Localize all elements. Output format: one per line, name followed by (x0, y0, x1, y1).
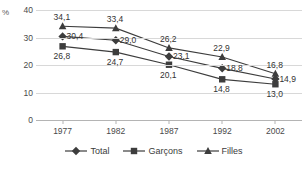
gridline (36, 65, 302, 66)
x-axis-tick-mark (115, 120, 116, 124)
gridline (36, 10, 302, 11)
data-point-label: 16,8 (266, 61, 283, 70)
x-axis-tick-label: 1992 (213, 126, 232, 136)
x-axis-tick-mark (169, 120, 170, 124)
x-axis-tick-label: 1982 (106, 126, 125, 136)
y-axis-tick-label: 10 (0, 88, 36, 98)
data-point-marker (113, 49, 119, 55)
data-point-marker (131, 148, 137, 154)
data-point-label: 33,4 (107, 15, 124, 24)
x-axis: 19771982198719922002 (36, 126, 302, 140)
data-point-label: 26,8 (54, 52, 71, 61)
y-axis: 010203040 (0, 0, 36, 120)
data-point-label: 22,9 (213, 44, 230, 53)
data-point-label: 13,0 (266, 90, 283, 99)
data-point-label: 23,1 (173, 52, 190, 61)
x-axis-tick-label: 1987 (160, 126, 179, 136)
y-axis-tick-label: 20 (0, 60, 36, 70)
data-point-marker (72, 147, 80, 155)
legend-label: Total (90, 146, 109, 156)
legend-label: Garçons (148, 146, 182, 156)
data-point-marker (58, 32, 66, 40)
data-point-label: 20,1 (160, 71, 177, 80)
data-point-label: 30,4 (67, 32, 84, 41)
legend-marker-diamond-icon (65, 146, 87, 156)
data-point-label: 14,9 (279, 75, 296, 84)
data-point-marker (165, 52, 173, 60)
legend-marker-triangle-icon (197, 146, 219, 156)
legend-item[interactable]: Total (65, 146, 109, 156)
data-point-marker (59, 43, 65, 49)
x-axis-tick-mark (275, 120, 276, 124)
x-axis-tick-label: 1977 (53, 126, 72, 136)
line-chart: % 010203040 30,429,023,118,814,926,824,7… (0, 0, 308, 172)
gridline (36, 93, 302, 94)
data-point-label: 34,1 (54, 13, 71, 22)
plot-area: 30,429,023,118,814,926,824,720,114,813,0… (36, 10, 302, 120)
legend-label: Filles (222, 146, 243, 156)
data-point-marker (272, 81, 278, 87)
y-axis-tick-label: 30 (0, 33, 36, 43)
y-axis-tick-label: 0 (0, 115, 36, 125)
data-point-marker (219, 76, 225, 82)
data-point-label: 26,2 (160, 35, 177, 44)
legend: TotalGarçonsFilles (0, 146, 308, 156)
legend-item[interactable]: Filles (197, 146, 243, 156)
legend-item[interactable]: Garçons (123, 146, 182, 156)
data-point-label: 24,7 (107, 58, 124, 67)
data-point-label: 14,8 (213, 85, 230, 94)
legend-marker-square-icon (123, 146, 145, 156)
data-point-label: 18,8 (226, 64, 243, 73)
data-point-label: 29,0 (120, 36, 137, 45)
y-axis-tick-label: 40 (0, 5, 36, 15)
x-axis-tick-mark (222, 120, 223, 124)
x-axis-tick-mark (62, 120, 63, 124)
x-axis-tick-label: 2002 (266, 126, 285, 136)
